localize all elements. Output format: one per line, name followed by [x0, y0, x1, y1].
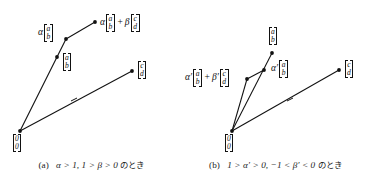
panel-b-a-vector-label: a b	[268, 27, 278, 45]
caption-suffix: のとき	[120, 160, 144, 170]
plus-operator: +	[117, 18, 122, 28]
panel-b-sum-label: α′ a b + β′ c d	[185, 69, 229, 87]
panel-b-alpha-a-label: α′ a b	[271, 60, 289, 78]
scalar-alpha-prime: α′	[185, 73, 192, 83]
c-vector-point	[130, 69, 134, 73]
vector-entry-bottom: b	[282, 69, 286, 77]
plus-operator: +	[205, 73, 210, 83]
beta-c-translate-line	[66, 22, 95, 39]
column-vector: c d	[345, 60, 354, 78]
column-vector: a b	[269, 27, 278, 45]
vector-entry-bottom: 0	[227, 143, 231, 151]
panel-a-sum-label: α a b + β c d	[100, 14, 140, 32]
vector-entry-bottom: b	[47, 33, 51, 41]
column-vector: c d	[220, 69, 229, 87]
panel-a-caption: (a) α > 1, 1 > β > 0 のとき	[0, 158, 183, 170]
vector-entry-bottom: b	[196, 78, 200, 86]
alpha-a-point	[64, 37, 68, 41]
vector-entry-bottom: 0	[15, 143, 19, 151]
column-vector: a b	[279, 60, 288, 78]
column-vector: 0 0	[13, 134, 22, 152]
column-vector: a b	[193, 69, 202, 87]
panel-b-origin-label: 0 0	[224, 134, 234, 152]
panel-b: 0 0 a b α′ a b α′ a b +	[184, 0, 367, 194]
column-vector: a b	[44, 24, 53, 42]
panel-a-origin-label: 0 0	[12, 134, 22, 152]
c-vector-line	[20, 71, 132, 131]
column-vector: c d	[131, 14, 140, 32]
caption-label: (a)	[38, 160, 49, 170]
caption-label: (b)	[209, 160, 220, 170]
panel-a-a-vector-label: a b	[62, 53, 72, 71]
sum-point	[245, 77, 249, 81]
vector-entry-bottom: b	[65, 62, 69, 70]
column-vector: c d	[138, 61, 147, 79]
a-vector-point	[55, 55, 59, 59]
scalar-beta: β	[125, 18, 130, 28]
caption-suffix: のとき	[318, 160, 342, 170]
panel-a-plot	[0, 0, 183, 160]
scalar-alpha-prime: α′	[271, 64, 278, 74]
caption-math: α > 1, 1 > β > 0	[56, 160, 118, 170]
column-vector: a b	[106, 14, 115, 32]
panel-b-c-vector-label: c d	[344, 60, 354, 78]
panel-a-alpha-a-label: α a b	[38, 24, 53, 42]
vector-entry-bottom: d	[347, 69, 351, 77]
a-vector-point	[270, 51, 274, 55]
column-vector: 0 0	[225, 134, 234, 152]
scalar-alpha: α	[38, 28, 43, 38]
scalar-alpha: α	[100, 18, 105, 28]
column-vector: a b	[63, 53, 72, 71]
panel-b-caption: (b) 1 > α′ > 0, −1 < β′ < 0 のとき	[184, 158, 367, 170]
vector-entry-bottom: b	[109, 23, 113, 31]
scalar-beta-prime: β′	[212, 73, 219, 83]
panel-a-c-vector-label: c d	[137, 61, 147, 79]
alpha-a-point	[262, 68, 266, 72]
c-vector-point	[337, 68, 341, 72]
sum-point	[93, 20, 97, 24]
vector-entry-bottom: b	[271, 36, 275, 44]
alpha-a-vector-line	[20, 39, 66, 131]
origin-point	[18, 129, 22, 133]
vector-entry-bottom: d	[133, 23, 137, 31]
vector-entry-bottom: d	[140, 70, 144, 78]
figure-root: 0 0 a b α a b α a b + β	[0, 0, 367, 194]
caption-math: 1 > α′ > 0, −1 < β′ < 0	[227, 160, 315, 170]
vector-entry-bottom: d	[222, 78, 226, 86]
origin-point	[230, 129, 234, 133]
panel-a: 0 0 a b α a b α a b + β	[0, 0, 183, 194]
